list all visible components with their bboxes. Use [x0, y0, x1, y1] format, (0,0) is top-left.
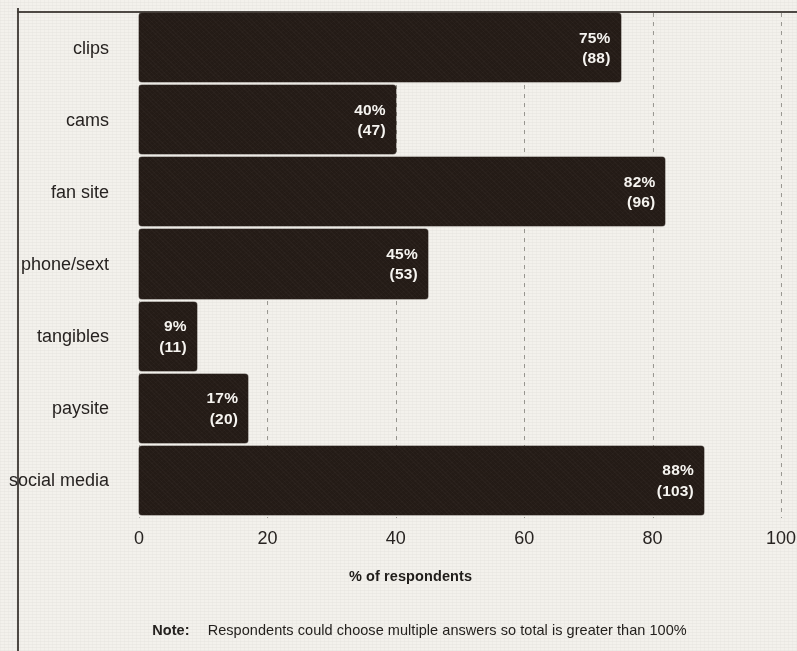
category-label-clips: clips [0, 37, 109, 58]
x-tick-100: 100 [766, 528, 796, 549]
category-label-social-media: social media [0, 470, 109, 491]
bar-count-label: (96) [624, 192, 656, 212]
x-axis-title: % of respondents [0, 568, 797, 584]
bar-tangibles[interactable]: 9%(11) [139, 302, 197, 371]
x-tick-40: 40 [386, 528, 406, 549]
bar-value-label: 45%(53) [386, 244, 418, 285]
x-tick-20: 20 [257, 528, 277, 549]
category-label-fan-site: fan site [0, 181, 109, 202]
category-label-tangibles: tangibles [0, 326, 109, 347]
x-axis-title-text: % of respondents [349, 568, 472, 584]
chart-page: clips75%(88)cams40%(47)fan site82%(96)ph… [0, 0, 797, 651]
plot-area: clips75%(88)cams40%(47)fan site82%(96)ph… [139, 13, 781, 518]
bar-fan-site[interactable]: 82%(96) [139, 157, 665, 226]
bar-percent-label: 40% [354, 99, 386, 119]
bar-social-media[interactable]: 88%(103) [139, 446, 704, 515]
bar-percent-label: 82% [624, 171, 656, 191]
bar-clips[interactable]: 75%(88) [139, 13, 621, 82]
bar-value-label: 40%(47) [354, 99, 386, 140]
bar-row: tangibles9%(11) [139, 302, 781, 371]
bar-row: cams40%(47) [139, 85, 781, 154]
x-tick-60: 60 [514, 528, 534, 549]
bar-row: social media88%(103) [139, 446, 781, 515]
bar-count-label: (47) [354, 120, 386, 140]
bar-percent-label: 88% [657, 460, 694, 480]
bar-row: fan site82%(96) [139, 157, 781, 226]
horizontal-bar-chart: clips75%(88)cams40%(47)fan site82%(96)ph… [0, 0, 797, 651]
bar-row: clips75%(88) [139, 13, 781, 82]
x-axis: 020406080100 [139, 518, 781, 558]
category-label-phone-sext: phone/sext [0, 253, 109, 274]
x-tick-0: 0 [134, 528, 144, 549]
bar-paysite[interactable]: 17%(20) [139, 374, 248, 443]
chart-note-prefix: Note: [152, 622, 189, 638]
bar-value-label: 82%(96) [624, 171, 656, 212]
bar-value-label: 88%(103) [657, 460, 694, 501]
gridline-100 [781, 13, 782, 518]
chart-note: Note: Respondents could choose multiple … [0, 622, 797, 638]
bar-cams[interactable]: 40%(47) [139, 85, 396, 154]
bar-value-label: 75%(88) [579, 27, 611, 68]
bar-percent-label: 17% [207, 388, 239, 408]
bar-phone-sext[interactable]: 45%(53) [139, 229, 428, 298]
bar-row: phone/sext45%(53) [139, 229, 781, 298]
bar-percent-label: 45% [386, 244, 418, 264]
bar-percent-label: 75% [579, 27, 611, 47]
bar-percent-label: 9% [159, 316, 187, 336]
bar-count-label: (103) [657, 480, 694, 500]
bar-row: paysite17%(20) [139, 374, 781, 443]
bar-value-label: 17%(20) [207, 388, 239, 429]
x-tick-80: 80 [643, 528, 663, 549]
bar-count-label: (20) [207, 408, 239, 428]
category-label-cams: cams [0, 109, 109, 130]
bar-count-label: (11) [159, 336, 187, 356]
bar-count-label: (88) [579, 48, 611, 68]
category-label-paysite: paysite [0, 398, 109, 419]
bar-count-label: (53) [386, 264, 418, 284]
chart-note-text: Respondents could choose multiple answer… [208, 622, 687, 638]
bar-value-label: 9%(11) [159, 316, 187, 357]
